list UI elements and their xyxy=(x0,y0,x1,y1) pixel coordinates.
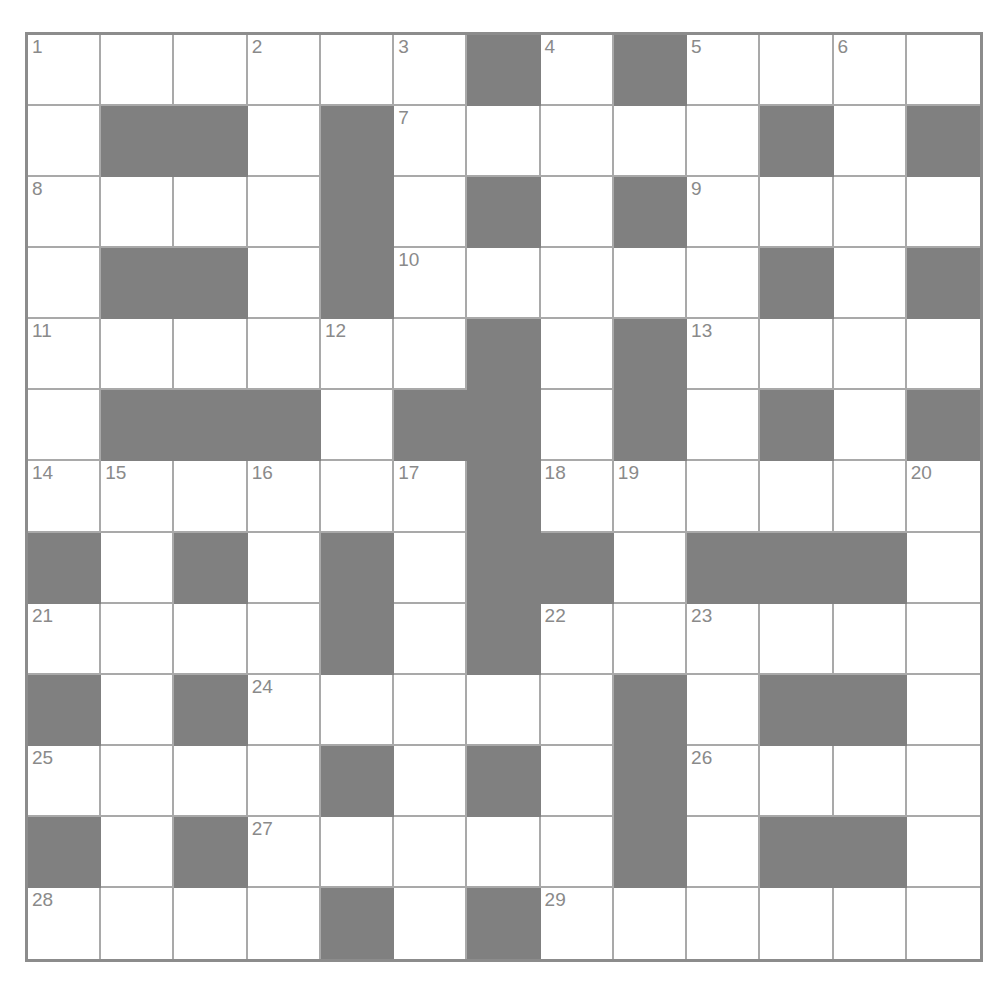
crossword-cell[interactable] xyxy=(760,35,833,106)
crossword-cell[interactable] xyxy=(541,817,614,888)
crossword-cell[interactable] xyxy=(174,888,247,959)
crossword-cell[interactable] xyxy=(28,248,101,319)
crossword-cell[interactable] xyxy=(541,319,614,390)
crossword-cell[interactable]: 7 xyxy=(394,106,467,177)
crossword-cell[interactable] xyxy=(248,248,321,319)
crossword-cell[interactable] xyxy=(907,319,980,390)
crossword-cell[interactable] xyxy=(760,888,833,959)
crossword-cell[interactable]: 8 xyxy=(28,177,101,248)
crossword-cell[interactable]: 20 xyxy=(907,461,980,532)
crossword-cell[interactable] xyxy=(467,106,540,177)
crossword-cell[interactable] xyxy=(394,817,467,888)
crossword-cell[interactable]: 2 xyxy=(248,35,321,106)
crossword-cell[interactable] xyxy=(614,248,687,319)
crossword-cell[interactable] xyxy=(760,461,833,532)
crossword-cell[interactable] xyxy=(174,319,247,390)
crossword-cell[interactable]: 3 xyxy=(394,35,467,106)
crossword-grid[interactable]: 1234567891011121314151617181920212223242… xyxy=(25,32,983,962)
crossword-cell[interactable] xyxy=(614,106,687,177)
crossword-cell[interactable] xyxy=(907,888,980,959)
crossword-cell[interactable]: 15 xyxy=(101,461,174,532)
crossword-cell[interactable] xyxy=(614,533,687,604)
crossword-cell[interactable] xyxy=(760,604,833,675)
crossword-cell[interactable] xyxy=(248,177,321,248)
crossword-cell[interactable] xyxy=(467,817,540,888)
crossword-cell[interactable] xyxy=(394,888,467,959)
crossword-cell[interactable]: 1 xyxy=(28,35,101,106)
crossword-cell[interactable] xyxy=(541,106,614,177)
crossword-cell[interactable] xyxy=(541,746,614,817)
crossword-cell[interactable] xyxy=(101,35,174,106)
crossword-cell[interactable] xyxy=(467,675,540,746)
crossword-cell[interactable] xyxy=(101,675,174,746)
crossword-cell[interactable] xyxy=(907,533,980,604)
crossword-cell[interactable] xyxy=(321,817,394,888)
crossword-cell[interactable] xyxy=(834,319,907,390)
crossword-cell[interactable]: 10 xyxy=(394,248,467,319)
crossword-cell[interactable] xyxy=(834,248,907,319)
crossword-cell[interactable]: 19 xyxy=(614,461,687,532)
crossword-cell[interactable] xyxy=(541,390,614,461)
crossword-cell[interactable] xyxy=(541,177,614,248)
crossword-cell[interactable] xyxy=(687,461,760,532)
crossword-cell[interactable] xyxy=(174,461,247,532)
crossword-cell[interactable]: 28 xyxy=(28,888,101,959)
crossword-cell[interactable]: 23 xyxy=(687,604,760,675)
crossword-cell[interactable] xyxy=(394,319,467,390)
crossword-cell[interactable] xyxy=(248,888,321,959)
crossword-cell[interactable]: 16 xyxy=(248,461,321,532)
crossword-cell[interactable] xyxy=(101,533,174,604)
crossword-cell[interactable]: 29 xyxy=(541,888,614,959)
crossword-cell[interactable] xyxy=(248,604,321,675)
crossword-cell[interactable] xyxy=(907,746,980,817)
crossword-cell[interactable] xyxy=(248,319,321,390)
crossword-cell[interactable] xyxy=(834,746,907,817)
crossword-cell[interactable]: 9 xyxy=(687,177,760,248)
crossword-cell[interactable]: 14 xyxy=(28,461,101,532)
crossword-cell[interactable] xyxy=(28,106,101,177)
crossword-cell[interactable] xyxy=(394,604,467,675)
crossword-cell[interactable] xyxy=(248,533,321,604)
crossword-cell[interactable] xyxy=(907,177,980,248)
crossword-cell[interactable] xyxy=(101,319,174,390)
crossword-cell[interactable]: 25 xyxy=(28,746,101,817)
crossword-cell[interactable] xyxy=(101,746,174,817)
crossword-cell[interactable]: 18 xyxy=(541,461,614,532)
crossword-cell[interactable] xyxy=(687,248,760,319)
crossword-cell[interactable] xyxy=(101,817,174,888)
crossword-cell[interactable] xyxy=(834,604,907,675)
crossword-cell[interactable] xyxy=(541,248,614,319)
crossword-cell[interactable] xyxy=(834,177,907,248)
crossword-cell[interactable]: 11 xyxy=(28,319,101,390)
crossword-cell[interactable] xyxy=(907,35,980,106)
crossword-cell[interactable] xyxy=(394,177,467,248)
crossword-cell[interactable] xyxy=(834,888,907,959)
crossword-cell[interactable] xyxy=(28,390,101,461)
crossword-cell[interactable] xyxy=(834,106,907,177)
crossword-cell[interactable] xyxy=(687,817,760,888)
crossword-cell[interactable]: 21 xyxy=(28,604,101,675)
crossword-cell[interactable] xyxy=(101,604,174,675)
crossword-cell[interactable] xyxy=(907,817,980,888)
crossword-cell[interactable] xyxy=(174,35,247,106)
crossword-cell[interactable] xyxy=(687,888,760,959)
crossword-cell[interactable] xyxy=(687,106,760,177)
crossword-cell[interactable] xyxy=(321,35,394,106)
crossword-cell[interactable]: 6 xyxy=(834,35,907,106)
crossword-cell[interactable] xyxy=(467,248,540,319)
crossword-cell[interactable] xyxy=(907,604,980,675)
crossword-cell[interactable] xyxy=(541,675,614,746)
crossword-cell[interactable] xyxy=(834,390,907,461)
crossword-cell[interactable]: 17 xyxy=(394,461,467,532)
crossword-cell[interactable] xyxy=(174,746,247,817)
crossword-cell[interactable] xyxy=(248,746,321,817)
crossword-cell[interactable]: 22 xyxy=(541,604,614,675)
crossword-cell[interactable] xyxy=(394,675,467,746)
crossword-cell[interactable]: 12 xyxy=(321,319,394,390)
crossword-cell[interactable] xyxy=(174,177,247,248)
crossword-cell[interactable]: 26 xyxy=(687,746,760,817)
crossword-cell[interactable] xyxy=(614,604,687,675)
crossword-cell[interactable] xyxy=(321,675,394,746)
crossword-cell[interactable] xyxy=(394,746,467,817)
crossword-cell[interactable] xyxy=(834,461,907,532)
